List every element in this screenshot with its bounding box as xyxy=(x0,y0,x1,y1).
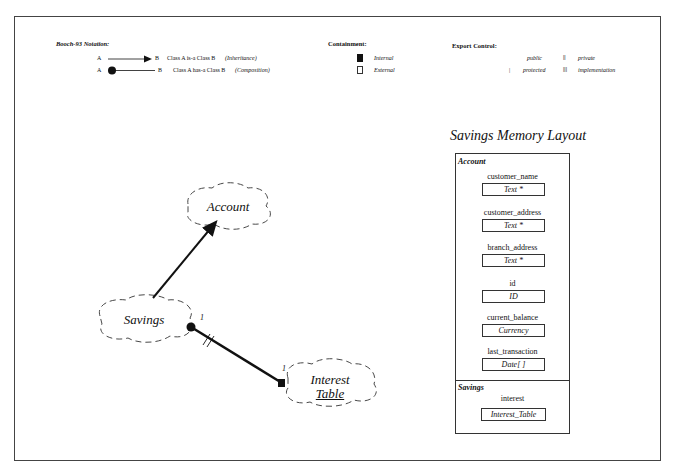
memory-layout-title: Savings Memory Layout xyxy=(450,128,586,144)
field-type: Text * xyxy=(482,183,545,196)
interest-table-class-label[interactable]: Interest Table xyxy=(298,373,362,401)
field-name: interest xyxy=(456,394,569,403)
account-class-label[interactable]: Account xyxy=(198,199,258,215)
memory-layout-box: Account customer_name Text * customer_ad… xyxy=(455,153,570,434)
section-divider xyxy=(456,380,569,381)
field-name: customer_address xyxy=(456,208,569,217)
section-account-label: Account xyxy=(458,157,486,166)
field-type: Currency xyxy=(482,324,545,337)
field-type: ID xyxy=(482,290,545,303)
field-type: Date[ ] xyxy=(482,358,545,371)
field-type: Text * xyxy=(482,254,545,267)
field-name: current_balance xyxy=(456,313,569,322)
to-multiplicity: 1 xyxy=(282,364,286,373)
field-type: Interest_Table xyxy=(481,408,546,421)
section-savings-label: Savings xyxy=(458,383,484,392)
composition-line xyxy=(191,327,282,383)
field-name: last_transaction xyxy=(456,347,569,356)
field-name: id xyxy=(456,279,569,288)
interest-table-label-line2: Table xyxy=(298,387,362,401)
field-name: customer_name xyxy=(456,172,569,181)
composition-dot-icon xyxy=(187,323,196,332)
field-type: Text * xyxy=(482,219,545,232)
from-multiplicity: 1 xyxy=(200,313,204,322)
inheritance-arrow xyxy=(153,223,215,298)
interest-table-label-line1: Interest xyxy=(298,373,362,387)
field-name: branch_address xyxy=(456,243,569,252)
internal-containment-icon xyxy=(278,379,285,387)
savings-class-label[interactable]: Savings xyxy=(114,312,174,328)
